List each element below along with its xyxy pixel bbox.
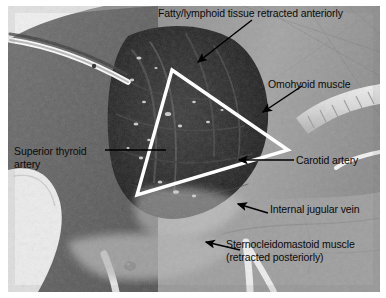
label-superior-thyroid-artery: Superior thyroid artery (14, 145, 106, 170)
label-superior-thyroid-artery-line2: artery (14, 158, 40, 170)
label-sternocleidomastoid-muscle-line2: (retracted posteriorly) (226, 251, 323, 263)
label-omohyoid-muscle: Omohyoid muscle (268, 78, 351, 91)
label-carotid-artery: Carotid artery (296, 154, 358, 167)
label-sternocleidomastoid-muscle: Sternocleidomastoid muscle (retracted po… (226, 238, 376, 263)
label-internal-jugular-vein: Internal jugular vein (270, 203, 360, 216)
surgical-anatomy-figure: Fatty/lymphoid tissue retracted anterior… (0, 0, 386, 298)
label-fatty-lymphoid-tissue: Fatty/lymphoid tissue retracted anterior… (158, 7, 343, 20)
label-sternocleidomastoid-muscle-line1: Sternocleidomastoid muscle (226, 238, 355, 250)
label-superior-thyroid-artery-line1: Superior thyroid (14, 145, 87, 157)
